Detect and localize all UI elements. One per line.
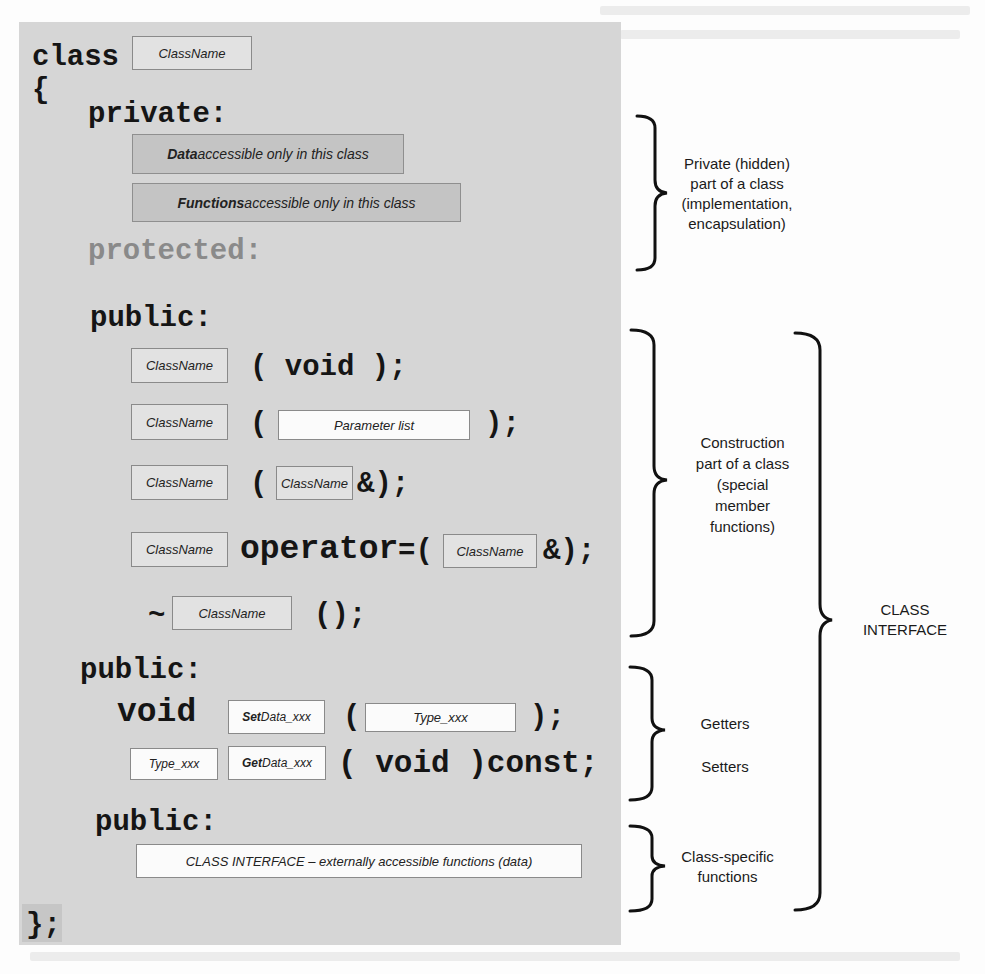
getters-setters-label: Getters Setters [690, 702, 760, 788]
construction-part-label: Construction part of a class (special me… [680, 432, 805, 537]
class-specific-label: Class-specific functions [670, 847, 785, 887]
private-part-label: Private (hidden) part of a class (implem… [672, 154, 802, 234]
curly-braces [0, 0, 985, 974]
construction-brace-icon [631, 330, 667, 636]
private-brace-icon [637, 116, 667, 270]
class-interface-brace-icon [795, 333, 832, 910]
accessors-brace-icon [630, 667, 665, 800]
class-interface-label: CLASS INTERFACE [850, 600, 960, 640]
class-specific-brace-icon [630, 826, 665, 911]
